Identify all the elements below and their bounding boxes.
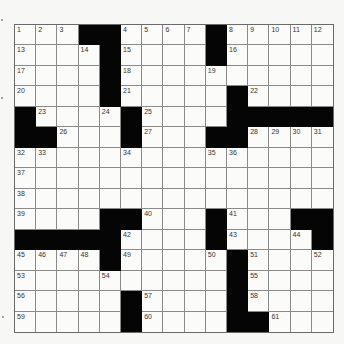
grid-cell[interactable] [142, 271, 163, 291]
grid-cell[interactable] [57, 209, 78, 229]
grid-cell[interactable] [36, 168, 57, 188]
grid-cell[interactable] [312, 271, 333, 291]
grid-cell[interactable] [206, 312, 227, 332]
grid-cell[interactable] [163, 127, 184, 147]
grid-cell[interactable]: 18 [121, 66, 142, 86]
grid-cell[interactable]: 37 [15, 168, 36, 188]
grid-cell[interactable] [248, 168, 269, 188]
grid-cell[interactable] [142, 66, 163, 86]
grid-cell[interactable] [185, 271, 206, 291]
grid-cell[interactable]: 27 [142, 127, 163, 147]
grid-cell[interactable] [100, 189, 121, 209]
grid-cell[interactable] [79, 66, 100, 86]
grid-cell[interactable]: 25 [142, 107, 163, 127]
grid-cell[interactable]: 43 [227, 230, 248, 250]
grid-cell[interactable] [291, 189, 312, 209]
grid-cell[interactable] [163, 86, 184, 106]
grid-cell[interactable] [185, 148, 206, 168]
grid-cell[interactable] [100, 168, 121, 188]
grid-cell[interactable]: 29 [269, 127, 290, 147]
grid-cell[interactable]: 32 [15, 148, 36, 168]
grid-cell[interactable] [312, 291, 333, 311]
grid-cell[interactable] [163, 148, 184, 168]
grid-cell[interactable] [36, 291, 57, 311]
grid-cell[interactable] [185, 291, 206, 311]
grid-cell[interactable] [121, 189, 142, 209]
grid-cell[interactable] [206, 86, 227, 106]
grid-cell[interactable] [269, 230, 290, 250]
grid-cell[interactable] [185, 230, 206, 250]
grid-cell[interactable] [312, 312, 333, 332]
grid-cell[interactable]: 41 [227, 209, 248, 229]
grid-cell[interactable]: 8 [227, 25, 248, 45]
grid-cell[interactable]: 52 [312, 250, 333, 270]
grid-cell[interactable]: 50 [206, 250, 227, 270]
grid-cell[interactable] [185, 107, 206, 127]
grid-cell[interactable] [57, 189, 78, 209]
grid-cell[interactable]: 11 [291, 25, 312, 45]
grid-cell[interactable] [163, 250, 184, 270]
grid-cell[interactable] [36, 271, 57, 291]
grid-cell[interactable] [248, 66, 269, 86]
grid-cell[interactable] [142, 250, 163, 270]
grid-cell[interactable] [36, 45, 57, 65]
grid-cell[interactable] [312, 168, 333, 188]
grid-cell[interactable] [79, 127, 100, 147]
grid-cell[interactable] [163, 271, 184, 291]
grid-cell[interactable] [291, 312, 312, 332]
grid-cell[interactable]: 17 [15, 66, 36, 86]
grid-cell[interactable] [269, 45, 290, 65]
grid-cell[interactable] [269, 168, 290, 188]
grid-cell[interactable] [79, 312, 100, 332]
grid-cell[interactable] [163, 209, 184, 229]
grid-cell[interactable]: 57 [142, 291, 163, 311]
grid-cell[interactable]: 47 [57, 250, 78, 270]
grid-cell[interactable]: 24 [100, 107, 121, 127]
grid-cell[interactable]: 30 [291, 127, 312, 147]
grid-cell[interactable] [142, 148, 163, 168]
grid-cell[interactable]: 34 [121, 148, 142, 168]
grid-cell[interactable]: 55 [248, 271, 269, 291]
grid-cell[interactable] [269, 291, 290, 311]
grid-cell[interactable] [163, 66, 184, 86]
grid-cell[interactable]: 48 [79, 250, 100, 270]
grid-cell[interactable] [163, 291, 184, 311]
grid-cell[interactable] [185, 86, 206, 106]
grid-cell[interactable] [36, 66, 57, 86]
grid-cell[interactable] [79, 148, 100, 168]
grid-cell[interactable] [248, 148, 269, 168]
grid-cell[interactable]: 60 [142, 312, 163, 332]
grid-cell[interactable] [269, 66, 290, 86]
grid-cell[interactable] [312, 45, 333, 65]
grid-cell[interactable] [79, 189, 100, 209]
grid-cell[interactable]: 42 [121, 230, 142, 250]
grid-cell[interactable] [248, 45, 269, 65]
grid-cell[interactable] [312, 148, 333, 168]
grid-cell[interactable] [36, 209, 57, 229]
grid-cell[interactable]: 33 [36, 148, 57, 168]
grid-cell[interactable]: 54 [100, 271, 121, 291]
grid-cell[interactable] [142, 230, 163, 250]
grid-cell[interactable] [79, 209, 100, 229]
grid-cell[interactable] [269, 209, 290, 229]
grid-cell[interactable]: 4 [121, 25, 142, 45]
grid-cell[interactable]: 45 [15, 250, 36, 270]
grid-cell[interactable] [291, 168, 312, 188]
grid-cell[interactable]: 5 [142, 25, 163, 45]
grid-cell[interactable] [312, 66, 333, 86]
grid-cell[interactable] [163, 189, 184, 209]
grid-cell[interactable] [185, 189, 206, 209]
grid-cell[interactable] [185, 66, 206, 86]
grid-cell[interactable]: 31 [312, 127, 333, 147]
grid-cell[interactable]: 44 [291, 230, 312, 250]
grid-cell[interactable]: 35 [206, 148, 227, 168]
grid-cell[interactable] [57, 45, 78, 65]
grid-cell[interactable] [36, 189, 57, 209]
grid-cell[interactable]: 12 [312, 25, 333, 45]
grid-cell[interactable] [79, 291, 100, 311]
grid-cell[interactable] [206, 291, 227, 311]
grid-cell[interactable] [57, 291, 78, 311]
grid-cell[interactable] [142, 168, 163, 188]
grid-cell[interactable] [57, 168, 78, 188]
grid-cell[interactable] [312, 189, 333, 209]
